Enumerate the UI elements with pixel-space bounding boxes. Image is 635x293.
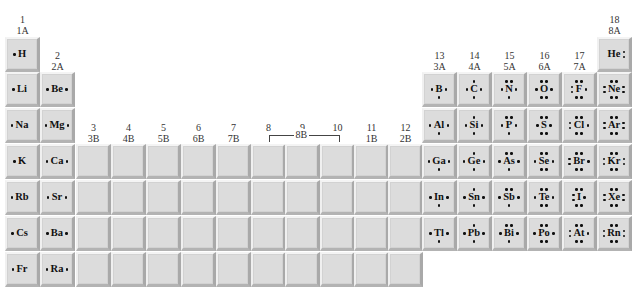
element-tile-ga[interactable]: Ga [422,144,457,179]
electron-dot [534,160,536,162]
element-tile-o[interactable]: O [527,72,562,107]
electron-dot [610,168,612,170]
electron-dot [540,240,542,242]
electron-dot [552,160,554,162]
element-tile-te[interactable]: Te [527,180,562,215]
blank-tile [146,144,181,179]
element-tile-i[interactable]: I [562,180,597,215]
electron-dot [429,196,431,198]
group-label: 3B [76,133,111,144]
element-tile-sn[interactable]: Sn [457,180,492,215]
electron-dot [580,188,582,190]
electron-dot [610,188,612,190]
element-tile-br[interactable]: Br [562,144,597,179]
element-tile-na[interactable]: Na [5,108,40,143]
element-tile-se[interactable]: Se [527,144,562,179]
element-tile-ba[interactable]: Ba [40,216,75,251]
element-tile-k[interactable]: K [5,144,40,179]
electron-dot [510,224,512,226]
element-tile-al[interactable]: Al [422,108,457,143]
element-tile-p[interactable]: P [492,108,527,143]
element-tile-n[interactable]: N [492,72,527,107]
group-number: 3 [76,122,111,133]
element-tile-sb[interactable]: Sb [492,180,527,215]
element-tile-cl[interactable]: Cl [562,108,597,143]
blank-tile [320,180,355,215]
element-tile-as[interactable]: As [492,144,527,179]
electron-dot [438,204,440,206]
element-tile-rn[interactable]: Rn [597,216,632,251]
electron-dot [540,132,542,134]
electron-dot [615,168,617,170]
element-tile-mg[interactable]: Mg [40,108,75,143]
element-symbol: Fr [16,263,27,274]
element-tile-cs[interactable]: Cs [5,216,40,251]
element-tile-tl[interactable]: Tl [422,216,457,251]
element-tile-c[interactable]: C [457,72,492,107]
electron-dot [622,122,624,124]
electron-dot [587,160,589,162]
element-tile-si[interactable]: Si [457,108,492,143]
element-tile-kr[interactable]: Kr [597,144,632,179]
electron-dot [603,91,605,93]
electron-dot [575,188,577,190]
element-tile-in[interactable]: In [422,180,457,215]
electron-dot [575,96,577,98]
element-tile-bi[interactable]: Bi [492,216,527,251]
electron-dot [46,268,48,270]
electron-dot [11,232,13,234]
electron-dot [11,196,13,198]
electron-dot [445,88,447,90]
electron-dot [463,196,465,198]
element-tile-fr[interactable]: Fr [5,252,40,287]
element-tile-xe[interactable]: Xe [597,180,632,215]
element-tile-po[interactable]: Po [527,216,562,251]
electron-dot [610,240,612,242]
element-tile-be[interactable]: Be [40,72,75,107]
element-symbol: Bi [504,227,514,238]
electron-dot [623,163,625,165]
element-tile-pb[interactable]: Pb [457,216,492,251]
blank-tile [76,216,111,251]
periodic-table: 11A22A33B44B55B66B77B8 9 10 111B122B133A… [0,0,635,293]
electron-dot [473,188,475,190]
element-symbol: In [434,191,444,202]
blank-tile [354,252,389,287]
group-header: 111B [354,122,389,144]
group-number: 14 [457,50,492,61]
element-tile-ne[interactable]: Ne [597,72,632,107]
electron-dot [448,160,450,162]
electron-dot [545,116,547,118]
electron-dot [540,204,542,206]
element-tile-he[interactable]: He [597,37,632,72]
element-symbol: O [540,83,548,94]
blank-tile [111,216,146,251]
element-tile-at[interactable]: At [562,216,597,251]
element-tile-h[interactable]: H [5,37,40,72]
group-label: 7A [562,61,597,72]
blank-tile [320,252,355,287]
element-tile-ca[interactable]: Ca [40,144,75,179]
electron-dot [66,268,68,270]
electron-dot [481,124,483,126]
electron-dot [428,160,430,162]
blank-tile [388,216,423,251]
group-number: 7 [216,122,251,133]
element-tile-rb[interactable]: Rb [5,180,40,215]
element-tile-ra[interactable]: Ra [40,252,75,287]
element-tile-ar[interactable]: Ar [597,108,632,143]
group-header: 66B [181,122,216,144]
element-tile-ge[interactable]: Ge [457,144,492,179]
element-tile-b[interactable]: B [422,72,457,107]
element-tile-li[interactable]: Li [5,72,40,107]
blank-tile [354,144,389,179]
element-tile-s[interactable]: S [527,108,562,143]
group-label: 1B [354,133,389,144]
group-label: 2A [40,61,75,72]
element-tile-f[interactable]: F [562,72,597,107]
electron-dot [505,116,507,118]
group-number: 11 [354,122,389,133]
element-tile-sr[interactable]: Sr [40,180,75,215]
electron-dot [575,152,577,154]
electron-dot [569,230,571,232]
